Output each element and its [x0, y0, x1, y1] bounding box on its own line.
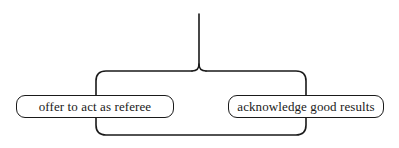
- node-acknowledge-good-results: acknowledge good results: [228, 95, 384, 118]
- connector-lines: [0, 0, 399, 148]
- node-label: acknowledge good results: [237, 99, 374, 115]
- node-offer-to-act-as-referee: offer to act as referee: [16, 95, 174, 118]
- node-label: offer to act as referee: [39, 99, 151, 115]
- stem-line: [192, 14, 199, 71]
